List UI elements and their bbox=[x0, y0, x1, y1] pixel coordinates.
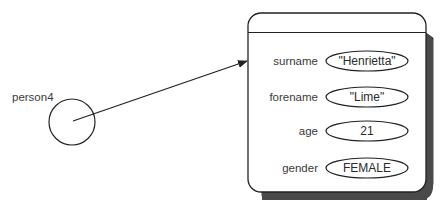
field-label-age: age bbox=[299, 125, 318, 137]
field-value-surname: "Henrietta" bbox=[338, 54, 395, 68]
field-label-gender: gender bbox=[282, 162, 318, 174]
variable-name-label: person4 bbox=[12, 91, 54, 103]
reference-arrow bbox=[73, 61, 247, 121]
field-value-forename: "Lime" bbox=[350, 90, 385, 104]
field-label-surname: surname bbox=[273, 55, 318, 67]
field-value-age: 21 bbox=[360, 124, 374, 138]
variable-circle bbox=[49, 99, 95, 145]
field-value-gender: FEMALE bbox=[343, 161, 391, 175]
field-label-forename: forename bbox=[269, 91, 318, 103]
object-reference-diagram: person4 surname "Henrietta" forename "Li… bbox=[0, 0, 448, 211]
